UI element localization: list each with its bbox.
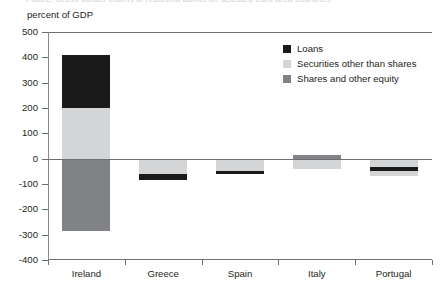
bar-segment[interactable] [139,174,187,179]
cropped-title-remnant: Figure. Cross-border claims of reporting… [26,0,426,2]
x-tick-mark [202,260,203,265]
x-tick-label: Greece [147,268,178,279]
y-tick-label: 400 [22,52,38,62]
legend-swatch-icon [283,75,291,83]
x-tick-label: Portugal [376,268,412,279]
y-axis-line [48,32,49,260]
bar-segment[interactable] [62,55,110,108]
y-tick-mark [42,209,48,210]
legend-item-securities[interactable]: Securities other than shares [283,56,433,71]
chart-legend: LoansSecurities other than sharesShares … [283,41,433,86]
y-tick-label: -300 [19,230,38,240]
x-tick-label: Spain [228,268,253,279]
y-tick-label: -200 [19,204,38,214]
chart-figure: Figure. Cross-border claims of reporting… [0,0,445,292]
bar-segment[interactable] [62,159,110,231]
bar-segment[interactable] [216,171,264,174]
y-tick-mark [42,32,48,33]
y-tick-mark [42,83,48,84]
legend-label: Loans [297,43,323,54]
bar-group[interactable] [139,32,187,260]
y-tick-mark [42,108,48,109]
y-tick-label: 200 [22,103,38,113]
legend-swatch-icon [283,60,291,68]
y-tick-mark [42,184,48,185]
y-tick-label: 0 [33,154,38,164]
x-tick-label: Italy [308,268,326,279]
y-tick-mark [42,57,48,58]
y-tick-label: 100 [22,128,38,138]
bar-group[interactable] [62,32,110,260]
legend-swatch-icon [283,45,291,53]
x-tick-mark [48,260,49,265]
zero-baseline [42,159,432,160]
legend-label: Securities other than shares [297,58,416,69]
x-tick-mark [355,260,356,265]
bar-segment[interactable] [62,108,110,159]
bar-segment[interactable] [216,159,264,171]
y-tick-label: -100 [19,179,38,189]
legend-label: Shares and other equity [297,73,399,84]
y-tick-mark [42,133,48,134]
y-tick-label: 500 [22,27,38,37]
x-tick-mark [125,260,126,265]
legend-item-shares[interactable]: Shares and other equity [283,71,433,86]
y-tick-mark [42,235,48,236]
x-tick-label: Ireland [72,268,101,279]
bar-segment[interactable] [370,167,418,171]
bar-segment[interactable] [293,159,341,170]
y-axis-unit-label: percent of GDP [27,9,93,20]
y-tick-label: -400 [19,255,38,265]
x-tick-mark [278,260,279,265]
bar-segment[interactable] [139,159,187,175]
bar-group[interactable] [216,32,264,260]
y-tick-label: 300 [22,78,38,88]
x-tick-mark [432,260,433,265]
legend-item-loans[interactable]: Loans [283,41,433,56]
